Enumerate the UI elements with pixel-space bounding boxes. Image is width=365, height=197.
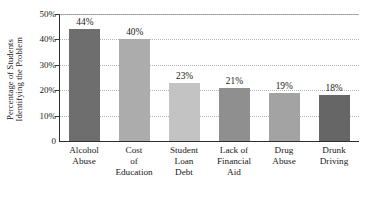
x-axis-category-labels: AlcoholAbuseCostofEducationStudentLoanDe… (59, 145, 359, 195)
x-axis-category-label-line: Driving (309, 156, 359, 167)
x-axis-category-label: CostofEducation (109, 145, 159, 179)
x-axis-category-label: AlcoholAbuse (59, 145, 109, 167)
x-axis-category-label: StudentLoanDebt (159, 145, 209, 179)
bar[interactable]: 23% (169, 83, 200, 141)
bar-slot: 44% (60, 14, 110, 141)
y-axis-tick-label: 50% (40, 10, 57, 19)
x-axis-category-label-line: Cost (109, 145, 159, 156)
bar-slot: 40% (110, 14, 160, 141)
bar[interactable]: 18% (319, 95, 350, 141)
x-axis-category-label-line: Student (159, 145, 209, 156)
x-axis-category-label: Lack ofFinancialAid (209, 145, 259, 179)
bar-slot: 21% (209, 14, 259, 141)
y-axis-title-line-2: Identifying the Problem (15, 37, 24, 121)
bar-value-label: 21% (226, 76, 243, 86)
y-axis-tick-labels: 010%20%30%40%50% (26, 14, 58, 141)
bars-layer: 44%40%23%21%19%18% (60, 14, 359, 141)
x-axis-category-label-line: Education (109, 167, 159, 178)
x-axis-category-label-line: Loan (159, 156, 209, 167)
bar-value-label: 40% (126, 27, 143, 37)
bar[interactable]: 21% (219, 88, 250, 141)
y-axis-tick-label: 30% (40, 60, 57, 69)
x-axis-category-label: DrunkDriving (309, 145, 359, 167)
x-axis-category-label-line: Financial (209, 156, 259, 167)
bar[interactable]: 40% (119, 39, 150, 141)
x-axis-category-label-line: Abuse (59, 156, 109, 167)
x-axis-category-label-line: Drug (259, 145, 309, 156)
bar-value-label: 23% (176, 71, 193, 81)
x-axis-line (59, 141, 359, 142)
x-axis-category-label-line: Debt (159, 167, 209, 178)
x-axis-category-label-line: Aid (209, 167, 259, 178)
y-axis-tick-label: 10% (40, 111, 57, 120)
bar-slot: 18% (309, 14, 359, 141)
x-axis-category-label-line: Lack of (209, 145, 259, 156)
y-axis-tick-label: 0 (52, 137, 57, 146)
x-axis-category-label-line: Alcohol (59, 145, 109, 156)
y-axis-tick-label: 20% (40, 86, 57, 95)
bar[interactable]: 19% (269, 93, 300, 141)
bar-value-label: 44% (76, 17, 93, 27)
bar-value-label: 19% (276, 81, 293, 91)
plot-area: 44%40%23%21%19%18% (59, 14, 359, 141)
x-axis-category-label-line: Abuse (259, 156, 309, 167)
bar-slot: 23% (160, 14, 210, 141)
bar-slot: 19% (259, 14, 309, 141)
bar[interactable]: 44% (69, 29, 100, 141)
x-axis-category-label-line: of (109, 156, 159, 167)
y-axis-tick-label: 40% (40, 35, 57, 44)
bar-chart: Percentage of Students Identifying the P… (0, 0, 365, 197)
bar-value-label: 18% (325, 83, 342, 93)
x-axis-category-label: DrugAbuse (259, 145, 309, 167)
x-axis-category-label-line: Drunk (309, 145, 359, 156)
